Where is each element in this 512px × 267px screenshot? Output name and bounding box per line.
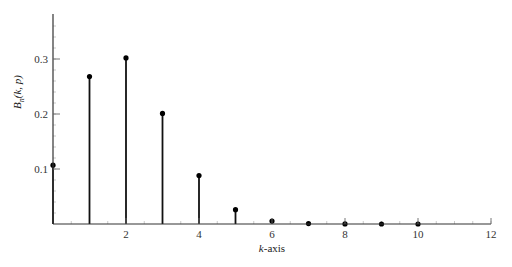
y-tick-label: 0.2 — [34, 108, 48, 120]
x-axis-ticks: 24681012 — [123, 218, 496, 240]
data-stems — [50, 55, 420, 226]
x-axis-label-rest: -axis — [264, 242, 285, 254]
y-axis-label: Bn(k, p) — [11, 75, 26, 109]
y-tick-label: 0.3 — [34, 53, 48, 65]
data-point-marker — [233, 207, 238, 212]
x-tick-label: 8 — [342, 228, 348, 240]
stem-k-5 — [233, 207, 238, 224]
minor-ticks — [53, 26, 491, 224]
stem-k-1 — [87, 74, 92, 224]
x-tick-label: 2 — [123, 228, 129, 240]
data-point-marker — [196, 173, 201, 178]
stem-chart: 24681012 0.10.20.3 k-axis Bn(k, p) — [0, 0, 512, 267]
x-axis-label: k-axis — [259, 242, 285, 254]
y-axis-label-args: (k, p) — [11, 75, 24, 99]
stem-k-4 — [196, 173, 201, 224]
stem-k-2 — [123, 55, 128, 224]
x-tick-label: 4 — [196, 228, 202, 240]
x-tick-label: 12 — [486, 228, 497, 240]
data-point-marker — [123, 55, 128, 60]
x-tick-label: 6 — [269, 228, 275, 240]
y-axis-ticks: 0.10.20.3 — [34, 53, 60, 175]
data-point-marker — [160, 111, 165, 116]
data-point-marker — [87, 74, 92, 79]
stem-k-3 — [160, 111, 165, 224]
x-tick-label: 10 — [413, 228, 425, 240]
y-tick-label: 0.1 — [34, 163, 48, 175]
